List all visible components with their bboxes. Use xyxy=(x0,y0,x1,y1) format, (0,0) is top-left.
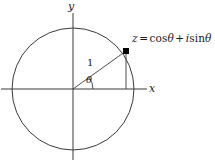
equation-theta-1: θ xyxy=(167,32,173,44)
equation-cos: cos xyxy=(150,32,168,44)
equation-sin: sin xyxy=(189,32,205,44)
equation-variable: z xyxy=(132,32,138,44)
equation-plus: + xyxy=(174,32,186,44)
point-equation-label: z=cosθ+isinθ xyxy=(132,33,211,44)
radius-line xyxy=(73,51,126,89)
theta-angle-label: θ xyxy=(86,75,92,85)
complex-plane-figure: y x 1 θ z=cosθ+isinθ xyxy=(0,0,215,167)
radius-length-label: 1 xyxy=(87,58,93,68)
equation-equals: = xyxy=(138,32,150,44)
figure-canvas xyxy=(0,0,215,167)
point-marker-z xyxy=(123,48,129,54)
equation-theta-2: θ xyxy=(205,32,211,44)
y-axis-label: y xyxy=(68,1,74,12)
x-axis-label: x xyxy=(149,83,155,94)
